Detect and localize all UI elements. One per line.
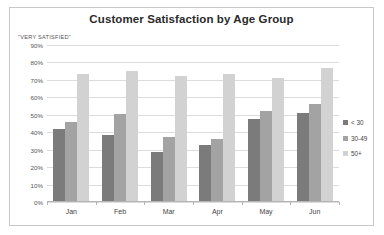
y-axis-tick-label: 40% xyxy=(31,129,43,136)
x-axis-tick xyxy=(96,202,97,205)
x-axis-tick xyxy=(339,202,340,205)
chart-title: Customer Satisfaction by Age Group xyxy=(10,13,373,25)
x-axis-tick xyxy=(193,202,194,205)
x-axis-tick-label: Apr xyxy=(212,208,223,215)
legend-item[interactable]: < 30 xyxy=(343,119,367,126)
x-axis-tick xyxy=(242,202,243,205)
legend-label: 50+ xyxy=(351,150,362,157)
bar[interactable] xyxy=(272,78,284,202)
x-axis-tick-label: Mar xyxy=(163,208,175,215)
bar[interactable] xyxy=(321,68,333,202)
bar-group xyxy=(144,45,193,202)
bar[interactable] xyxy=(53,129,65,202)
y-axis-tick-label: 10% xyxy=(31,181,43,188)
x-axis-tick-label: Feb xyxy=(114,208,126,215)
bar-group xyxy=(290,45,339,202)
bar[interactable] xyxy=(126,71,138,202)
bar[interactable] xyxy=(223,74,235,202)
y-axis-tick-label: 0% xyxy=(34,199,43,206)
x-axis-tick xyxy=(290,202,291,205)
bar[interactable] xyxy=(163,137,175,202)
y-axis-tick-label: 60% xyxy=(31,94,43,101)
legend-swatch-icon xyxy=(343,151,348,156)
bar[interactable] xyxy=(114,114,126,202)
y-axis-tick-label: 30% xyxy=(31,146,43,153)
legend-item[interactable]: 50+ xyxy=(343,150,367,157)
bar[interactable] xyxy=(199,145,211,202)
y-axis-tick-label: 90% xyxy=(31,42,43,49)
bar[interactable] xyxy=(102,135,114,202)
y-axis-title: "VERY SATISFIED" xyxy=(18,34,71,40)
plot-area: 0%10%20%30%40%50%60%70%80%90% JanFebMarA… xyxy=(47,45,339,202)
x-axis-tick xyxy=(144,202,145,205)
x-axis-tick xyxy=(47,202,48,205)
bar[interactable] xyxy=(309,104,321,202)
bar[interactable] xyxy=(175,76,187,202)
bar-group xyxy=(47,45,96,202)
bar-group xyxy=(96,45,145,202)
x-axis-tick-label: May xyxy=(259,208,272,215)
bar[interactable] xyxy=(211,139,223,202)
bar[interactable] xyxy=(77,74,89,202)
legend-item[interactable]: 30-49 xyxy=(343,135,367,142)
chart-container: Customer Satisfaction by Age Group "VERY… xyxy=(9,7,374,226)
y-axis-tick-label: 70% xyxy=(31,76,43,83)
legend-swatch-icon xyxy=(343,136,348,141)
legend-swatch-icon xyxy=(343,120,348,125)
legend-label: 30-49 xyxy=(351,135,367,142)
bar-group xyxy=(193,45,242,202)
y-axis-tick-label: 50% xyxy=(31,111,43,118)
y-axis-tick-label: 20% xyxy=(31,164,43,171)
bar[interactable] xyxy=(248,119,260,202)
bar-group xyxy=(242,45,291,202)
x-axis-tick-label: Jan xyxy=(66,208,77,215)
bar[interactable] xyxy=(297,113,309,202)
bar[interactable] xyxy=(260,111,272,202)
chart-legend: < 3030-4950+ xyxy=(343,119,367,157)
legend-label: < 30 xyxy=(351,119,364,126)
y-axis-tick-label: 80% xyxy=(31,59,43,66)
bar[interactable] xyxy=(151,152,163,202)
bar[interactable] xyxy=(65,122,77,202)
x-axis-tick-label: Jun xyxy=(309,208,320,215)
